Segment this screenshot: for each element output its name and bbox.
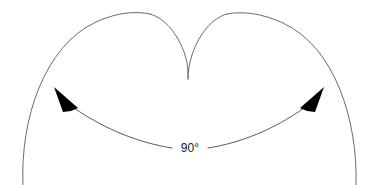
geometry-figure: Cusped curve with 90 degree angle arc 90… xyxy=(0,0,376,185)
diagram-canvas: Cusped curve with 90 degree angle arc 90… xyxy=(0,0,376,185)
angle-label: 90° xyxy=(181,141,200,155)
